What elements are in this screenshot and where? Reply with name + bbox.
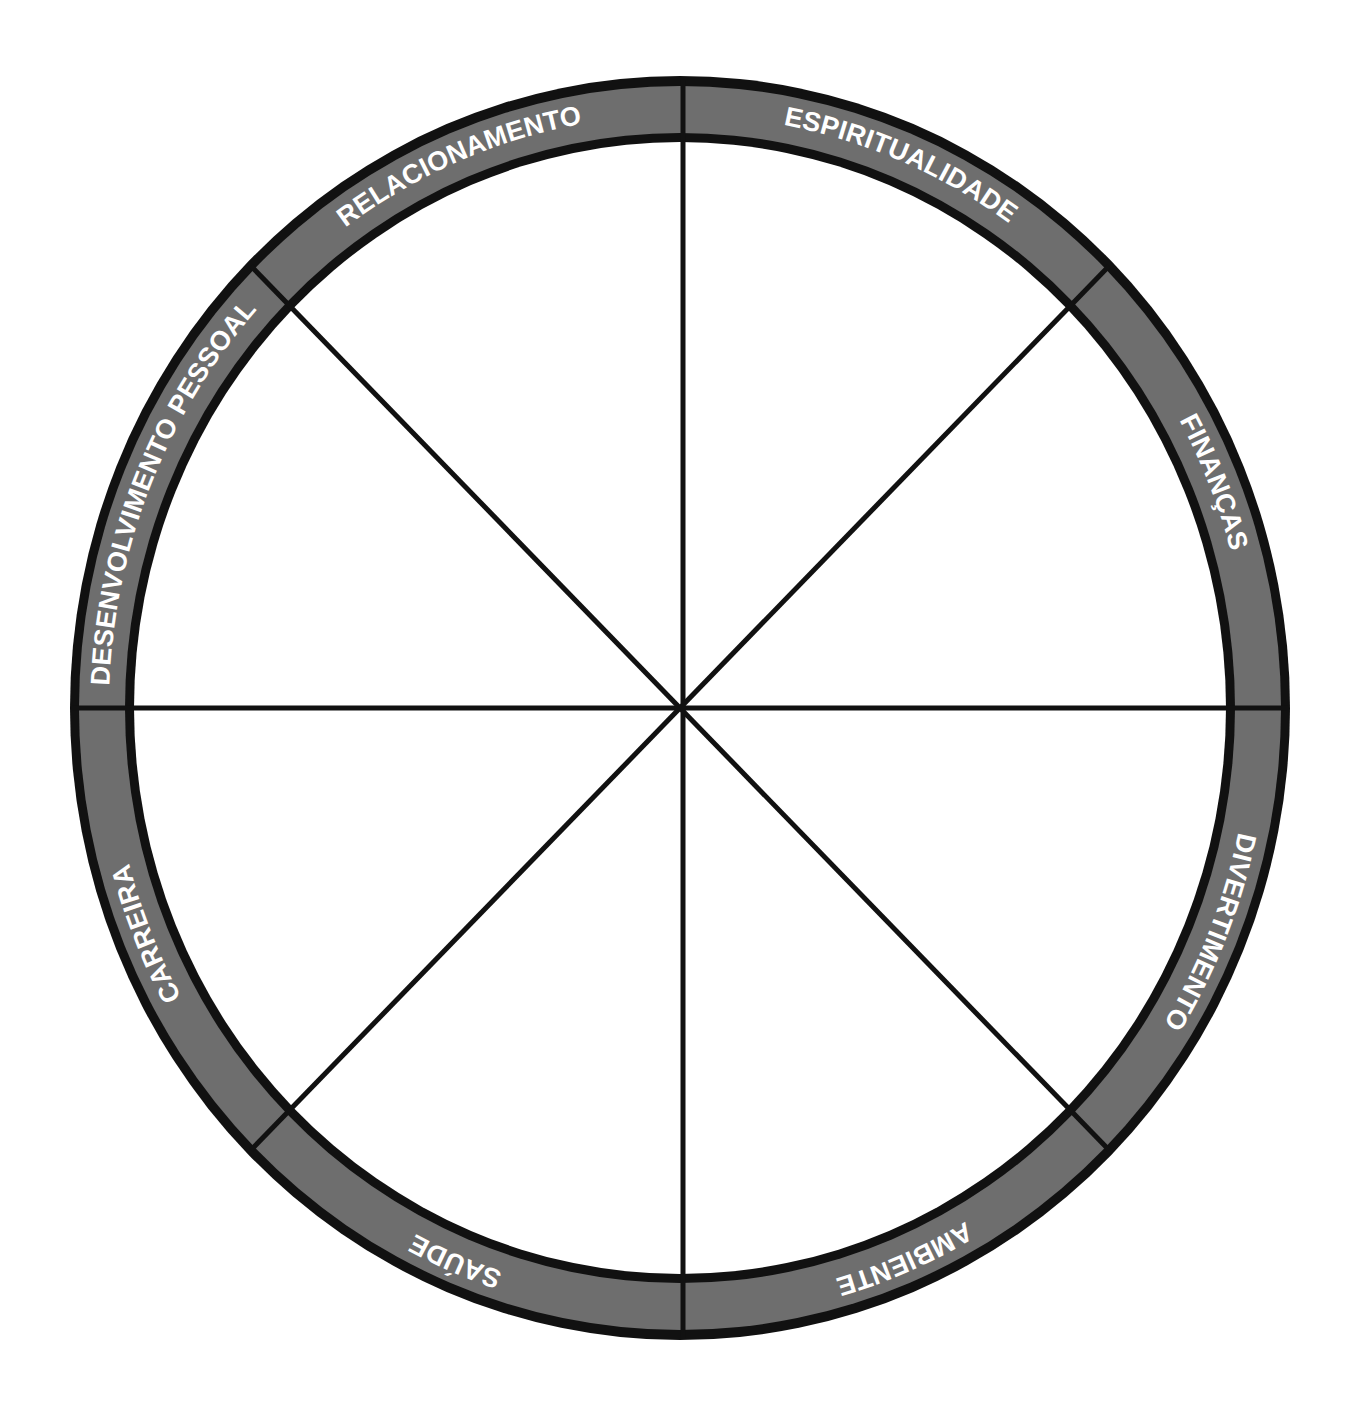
wheel-of-life-diagram: DESENVOLVIMENTO PESSOAL RELACIONAMENTO E…: [0, 0, 1357, 1406]
